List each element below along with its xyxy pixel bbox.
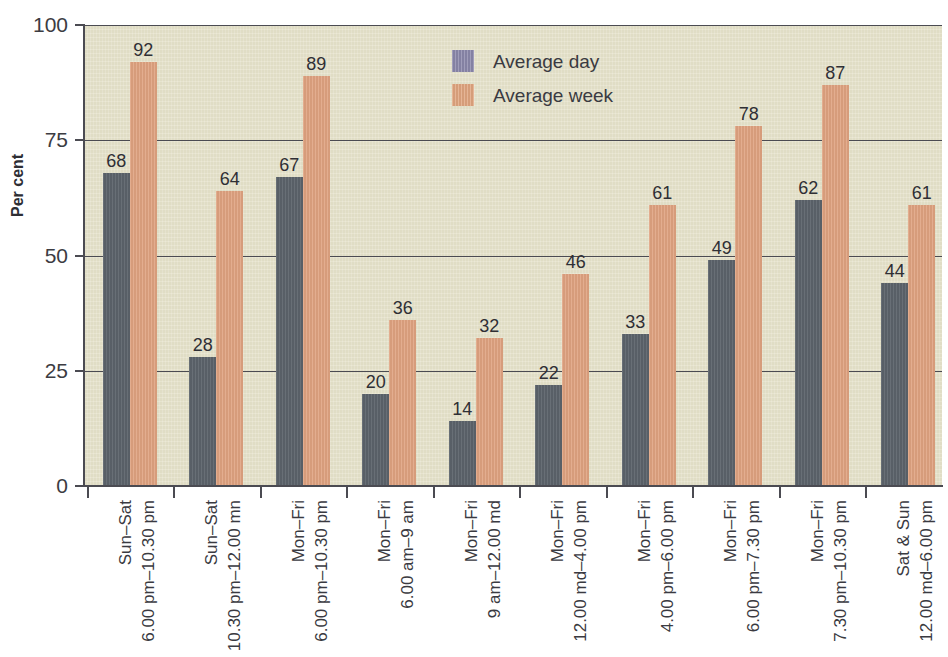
x-axis-label-day-range: Mon–Fri (722, 500, 739, 562)
bar-day-5: 22 (535, 385, 562, 486)
bar-value-label: 62 (798, 179, 818, 197)
x-axis-label-day-range: Mon–Fri (290, 500, 307, 562)
x-axis-label-time-range: 6.00 pm–7.30 pm (745, 500, 762, 632)
bar-week-9: 61 (908, 205, 935, 486)
x-axis-label-day-range: Sun–Sat (203, 500, 220, 565)
x-axis-label-time-range: 12.00 md–4.00 pm (572, 500, 589, 642)
x-axis-label-time-range: 6.00 pm–10.30 pm (313, 500, 330, 642)
bar-value-label: 22 (539, 364, 559, 382)
bar-value-label: 61 (912, 184, 932, 202)
bar-value-label: 33 (625, 313, 645, 331)
x-axis-label-group-0: Sun–Sat6.00 pm–10.30 pm (95, 500, 155, 650)
x-axis-label-time-range: 4.00 pm–6.00 pm (659, 500, 676, 632)
bar-week-6: 61 (649, 205, 676, 486)
bar-value-label: 44 (885, 262, 905, 280)
bar-day-8: 62 (795, 200, 822, 486)
bar-value-label: 64 (220, 170, 240, 188)
x-axis-label-group-5: Mon–Fri12.00 md–4.00 pm (527, 500, 587, 650)
x-axis-label-time-range: 10.30 pm–12.00 mn (226, 500, 243, 651)
bar-chart-figure: 6892286467892036143222463361497862874461… (0, 0, 948, 657)
bar-week-7: 78 (735, 126, 762, 486)
x-tick-6 (606, 487, 608, 498)
bar-week-0: 92 (130, 62, 157, 486)
bar-value-label: 49 (712, 239, 732, 257)
x-axis-label-day-range: Mon–Fri (549, 500, 566, 562)
bar-value-label: 92 (133, 41, 153, 59)
x-axis-label-group-7: Mon–Fri6.00 pm–7.30 pm (700, 500, 760, 650)
bar-week-5: 46 (562, 274, 589, 486)
bar-day-1: 28 (189, 357, 216, 486)
x-tick-2 (260, 487, 262, 498)
x-tick-0 (87, 487, 89, 498)
x-tick-4 (433, 487, 435, 498)
x-axis-label-time-range: 9 am–12.00 md (486, 500, 503, 618)
x-axis-label-day-range: Sun–Sat (117, 500, 134, 565)
chart-legend: Average dayAverage week (452, 44, 613, 112)
x-axis-line (83, 485, 943, 487)
bar-day-9: 44 (881, 283, 908, 486)
bar-value-label: 89 (306, 55, 326, 73)
bar-day-6: 33 (622, 334, 649, 486)
bar-day-3: 20 (362, 394, 389, 486)
bar-value-label: 61 (652, 184, 672, 202)
legend-entry-week: Average week (452, 78, 613, 112)
x-axis-label-day-range: Mon–Fri (376, 500, 393, 562)
bar-value-label: 78 (739, 105, 759, 123)
bar-value-label: 20 (366, 373, 386, 391)
x-axis-label-day-range: Mon–Fri (809, 500, 826, 562)
x-tick-1 (173, 487, 175, 498)
x-tick-5 (519, 487, 521, 498)
x-axis-label-group-1: Sun–Sat10.30 pm–12.00 mn (181, 500, 241, 650)
bar-week-8: 87 (822, 85, 849, 486)
legend-label-week: Average week (493, 86, 613, 105)
bar-value-label: 32 (479, 317, 499, 335)
x-axis-label-group-6: Mon–Fri4.00 pm–6.00 pm (614, 500, 674, 650)
legend-swatch-day (452, 50, 474, 72)
x-axis-label-group-2: Mon–Fri6.00 pm–10.30 pm (268, 500, 328, 650)
gridline-75 (84, 140, 942, 141)
bar-week-3: 36 (389, 320, 416, 486)
x-axis-label-time-range: 6.00 pm–10.30 pm (140, 500, 157, 642)
bar-value-label: 36 (393, 299, 413, 317)
y-axis-title: Per cent (9, 193, 27, 217)
x-axis-label-group-8: Mon–Fri7.30 pm–10.30 pm (787, 500, 847, 650)
x-axis-label-group-9: Sat & Sun12.00 md–6.00 pm (873, 500, 933, 650)
x-axis-label-group-3: Mon–Fri6.00 am–9 am (354, 500, 414, 650)
y-tick-label-100: 100 (0, 14, 80, 35)
legend-label-day: Average day (493, 52, 599, 71)
bar-value-label: 67 (279, 156, 299, 174)
y-tick-label-25: 25 (0, 360, 80, 381)
bar-day-2: 67 (276, 177, 303, 486)
x-axis-label-day-range: Mon–Fri (636, 500, 653, 562)
y-tick-label-75: 75 (0, 129, 80, 150)
bar-value-label: 68 (106, 152, 126, 170)
legend-entry-day: Average day (452, 44, 613, 78)
x-tick-8 (779, 487, 781, 498)
x-axis-label-time-range: 6.00 am–9 am (399, 500, 416, 609)
bar-week-2: 89 (303, 76, 330, 486)
bar-week-1: 64 (216, 191, 243, 486)
x-axis-label-time-range: 12.00 md–6.00 pm (918, 500, 935, 642)
bar-value-label: 14 (452, 400, 472, 418)
x-axis-label-day-range: Mon–Fri (463, 500, 480, 562)
gridline-100 (84, 25, 942, 26)
x-axis-label-time-range: 7.30 pm–10.30 pm (832, 500, 849, 642)
bar-value-label: 87 (825, 64, 845, 82)
bar-value-label: 46 (566, 253, 586, 271)
bar-day-4: 14 (449, 421, 476, 486)
y-tick-label-0: 0 (0, 475, 80, 496)
bar-value-label: 28 (193, 336, 213, 354)
x-axis-label-day-range: Sat & Sun (895, 500, 912, 577)
bar-day-0: 68 (103, 173, 130, 486)
y-tick-label-50: 50 (0, 245, 80, 266)
x-tick-3 (346, 487, 348, 498)
x-tick-9 (865, 487, 867, 498)
bar-day-7: 49 (708, 260, 735, 486)
legend-swatch-week (452, 84, 474, 106)
x-tick-7 (692, 487, 694, 498)
x-axis-label-group-4: Mon–Fri9 am–12.00 md (441, 500, 501, 650)
bar-week-4: 32 (476, 338, 503, 486)
